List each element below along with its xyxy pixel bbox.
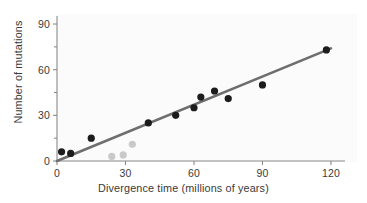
x-axis-ticks <box>57 161 331 165</box>
y-axis-ticks <box>53 24 57 161</box>
data-point <box>120 151 127 158</box>
data-point <box>145 119 152 126</box>
data-point <box>172 112 179 119</box>
data-point <box>58 148 65 155</box>
data-point <box>211 87 218 94</box>
primary-data-points <box>58 46 330 157</box>
x-axis-title: Divergence time (millions of years) <box>0 182 367 194</box>
y-tick-label: 0 <box>18 155 50 167</box>
data-point <box>67 150 74 157</box>
data-point <box>323 46 330 53</box>
data-point <box>225 95 232 102</box>
x-tick-label: 30 <box>120 167 132 179</box>
data-point <box>129 141 136 148</box>
x-tick-label: 0 <box>54 167 60 179</box>
x-tick-label: 60 <box>188 167 200 179</box>
data-point <box>197 93 204 100</box>
data-point <box>259 81 266 88</box>
x-tick-label: 90 <box>257 167 269 179</box>
data-point <box>108 153 115 160</box>
x-tick-label: 120 <box>322 167 340 179</box>
scatter-plot-figure: 0306090120 0306090 Divergence time (mill… <box>0 0 367 203</box>
data-point <box>88 135 95 142</box>
y-axis-title: Number of mutations <box>12 0 24 152</box>
data-point <box>190 104 197 111</box>
outlier-data-points <box>108 141 136 160</box>
